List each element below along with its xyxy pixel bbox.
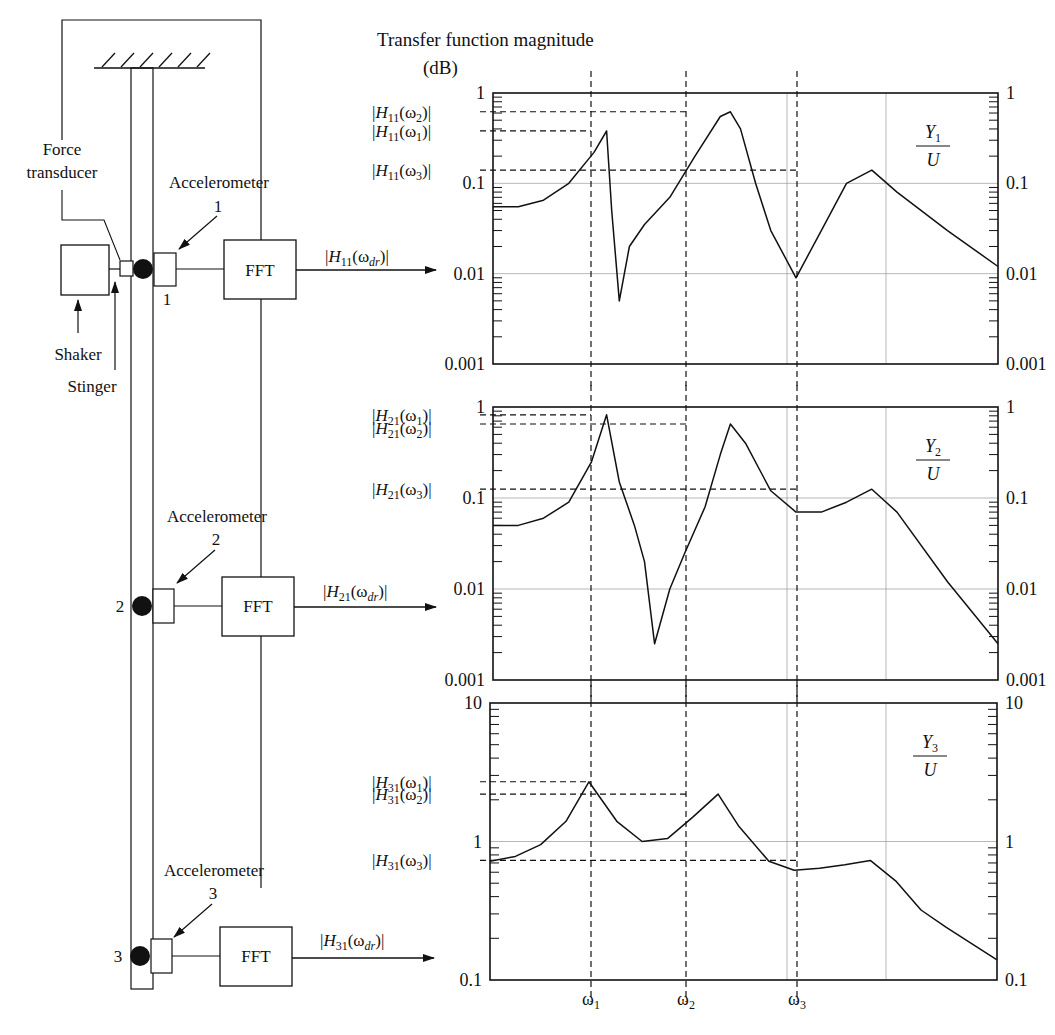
y-tick-label-left: 1 xyxy=(476,83,485,103)
station-3: 3 Accelerometer 3 FFT |H31(ωdr)| xyxy=(114,861,434,986)
y-tick-label-right: 0.1 xyxy=(1006,488,1029,508)
frf-curve xyxy=(490,782,997,960)
fft-label-3: FFT xyxy=(241,947,271,966)
y-tick-label-right: 0.1 xyxy=(1005,970,1028,990)
peak-label: |H11(ω1)| xyxy=(372,122,431,144)
force-transducer-label-line2: transducer xyxy=(27,163,98,182)
ratio-denominator: U xyxy=(924,760,938,780)
fft-label-1: FFT xyxy=(245,261,275,280)
y-tick-label-left: 0.1 xyxy=(463,173,486,193)
y-tick-label-left: 10 xyxy=(464,693,482,713)
accelerometer-1-box xyxy=(154,253,176,286)
peak-label: |H21(ω2)| xyxy=(372,419,432,441)
accelerometer-1-tag: 1 xyxy=(163,290,172,309)
ratio-numerator: Y3 xyxy=(922,732,938,755)
accelerometer-1-number: 1 xyxy=(214,197,223,216)
plot-frame xyxy=(493,407,998,680)
output-label-2: |H21(ωdr)| xyxy=(323,582,387,604)
x-axis-omega-label: ω1 xyxy=(582,989,600,1012)
accelerometer-3-number: 3 xyxy=(209,884,218,903)
pointer-arrow-icon xyxy=(177,550,215,583)
point-3-label: 3 xyxy=(114,947,123,966)
force-transducer-box xyxy=(120,261,133,276)
frf-curve xyxy=(493,112,998,301)
fixed-support-icon xyxy=(94,53,210,68)
accelerometer-1-label: Accelerometer xyxy=(169,173,269,192)
y-tick-label-right: 1 xyxy=(1006,397,1015,417)
ratio-denominator: U xyxy=(927,464,941,484)
y-tick-label-left: 0.001 xyxy=(445,354,486,374)
shaker-box xyxy=(61,245,109,295)
measurement-point-2 xyxy=(132,596,152,616)
x-axis-omega-label: ω2 xyxy=(677,989,695,1012)
y-tick-label-right: 1 xyxy=(1006,83,1015,103)
y-tick-label-left: 0.01 xyxy=(454,264,486,284)
y-tick-label-right: 0.001 xyxy=(1006,354,1047,374)
frf-plot-3: 1010110.10.1|H31(ω1)||H31(ω2)||H31(ω3)|Y… xyxy=(372,681,1028,1002)
y-tick-label-left: 1 xyxy=(473,832,482,852)
peak-label: |H31(ω3)| xyxy=(372,851,432,873)
measurement-point-1 xyxy=(133,259,153,279)
y-tick-label-right: 0.1 xyxy=(1006,173,1029,193)
frf-plot-2: 110.10.10.010.010.0010.001|H21(ω1)||H21(… xyxy=(372,385,1047,702)
point-2-label: 2 xyxy=(116,597,125,616)
ratio-numerator: Y1 xyxy=(925,122,941,145)
fft-label-2: FFT xyxy=(243,597,273,616)
accelerometer-3-box xyxy=(151,939,172,973)
y-tick-label-right: 1 xyxy=(1005,832,1014,852)
frf-curve xyxy=(493,415,998,644)
y-tick-label-left: 0.01 xyxy=(454,579,486,599)
figure-unit: (dB) xyxy=(423,57,458,79)
accelerometer-2-number: 2 xyxy=(212,530,221,549)
modal-testing-figure: Force transducer Shaker Stinger Accelero… xyxy=(0,0,1055,1035)
force-signal-line xyxy=(62,20,261,240)
output-label-1: |H11(ωdr)| xyxy=(325,247,389,269)
frf-plots: 110.10.10.010.010.0010.001|H11(ω2)||H11(… xyxy=(372,71,1047,1012)
shaker-label: Shaker xyxy=(54,345,102,364)
pointer-arrow-icon xyxy=(174,904,212,937)
station-1: Accelerometer 1 1 FFT |H11(ωdr)| xyxy=(133,173,436,309)
peak-label: |H31(ω2)| xyxy=(372,785,432,807)
frf-plot-1: 110.10.10.010.010.0010.001|H11(ω2)||H11(… xyxy=(372,71,1047,386)
force-transducer-label-line1: Force xyxy=(43,140,82,159)
output-label-3: |H31(ωdr)| xyxy=(320,931,384,953)
x-axis-omega-label: ω3 xyxy=(788,989,806,1012)
y-tick-label-left: 1 xyxy=(476,397,485,417)
measurement-point-3 xyxy=(130,946,150,966)
y-tick-label-left: 0.001 xyxy=(445,670,486,690)
ratio-numerator: Y2 xyxy=(925,436,941,459)
cantilever-beam xyxy=(131,68,153,989)
y-tick-label-right: 0.01 xyxy=(1006,264,1038,284)
accelerometer-2-label: Accelerometer xyxy=(167,507,267,526)
accelerometer-2-box xyxy=(153,589,174,623)
stinger-label: Stinger xyxy=(67,377,116,396)
y-tick-label-left: 0.1 xyxy=(460,970,483,990)
peak-label: |H11(ω3)| xyxy=(372,161,431,183)
y-tick-label-right: 0.001 xyxy=(1006,670,1047,690)
peak-label: |H21(ω3)| xyxy=(372,480,432,502)
plot-frame xyxy=(493,93,998,364)
station-2: 2 Accelerometer 2 FFT |H21(ωdr)| xyxy=(116,507,436,636)
figure-title: Transfer function magnitude xyxy=(377,29,594,50)
accelerometer-3-label: Accelerometer xyxy=(164,861,264,880)
pointer-arrow-icon xyxy=(179,216,217,249)
y-tick-label-right: 0.01 xyxy=(1006,579,1038,599)
y-tick-label-right: 10 xyxy=(1005,693,1023,713)
y-tick-label-left: 0.1 xyxy=(463,488,486,508)
ratio-denominator: U xyxy=(927,150,941,170)
